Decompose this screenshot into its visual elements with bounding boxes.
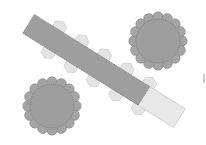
table-top [30,84,74,128]
round-table-bottom-left [23,77,81,135]
seating-diagram [0,0,206,145]
table-top [136,19,180,63]
round-table-top-right [129,12,187,70]
